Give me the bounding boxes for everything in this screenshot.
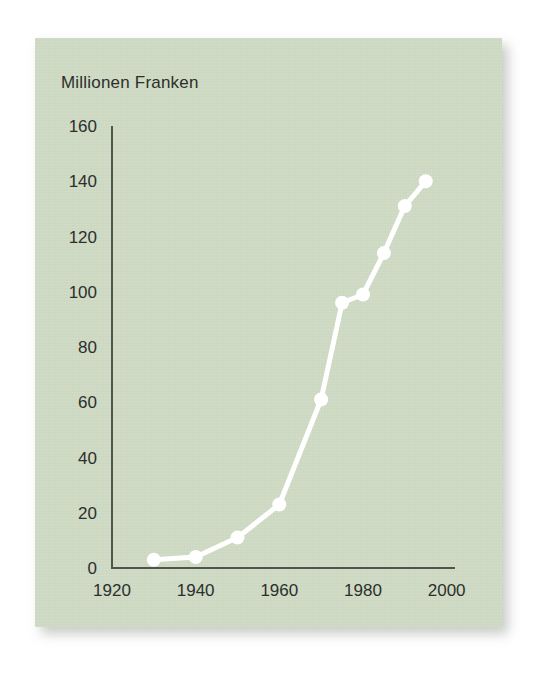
chart-panel: Millionen Franken 020406080100120140160 …: [35, 38, 502, 627]
data-point-markers: [147, 174, 433, 566]
data-point-marker: [189, 550, 203, 564]
data-point-marker: [272, 498, 286, 512]
data-point-marker: [419, 174, 433, 188]
x-tick-label: 1960: [260, 581, 298, 600]
y-tick-label: 160: [69, 117, 97, 136]
y-tick-label: 140: [69, 172, 97, 191]
data-point-marker: [147, 553, 161, 567]
y-tick-label: 100: [69, 283, 97, 302]
data-point-marker: [356, 288, 370, 302]
y-tick-label: 40: [78, 449, 97, 468]
x-tick-label: 2000: [428, 581, 466, 600]
x-tick-label: 1980: [344, 581, 382, 600]
line-chart-plot: 020406080100120140160 192019401960198020…: [35, 38, 502, 627]
y-tick-label: 60: [78, 393, 97, 412]
data-point-marker: [398, 199, 412, 213]
y-axis-tick-labels: 020406080100120140160: [69, 117, 97, 578]
x-tick-label: 1940: [177, 581, 215, 600]
y-tick-label: 80: [78, 338, 97, 357]
data-point-marker: [231, 531, 245, 545]
x-tick-label: 1920: [93, 581, 131, 600]
data-series-line: [154, 181, 426, 559]
data-point-marker: [377, 246, 391, 260]
y-tick-label: 0: [88, 559, 97, 578]
y-tick-label: 120: [69, 228, 97, 247]
y-tick-label: 20: [78, 504, 97, 523]
data-point-marker: [314, 393, 328, 407]
x-axis-tick-labels: 19201940196019802000: [93, 581, 465, 600]
data-point-marker: [335, 296, 349, 310]
